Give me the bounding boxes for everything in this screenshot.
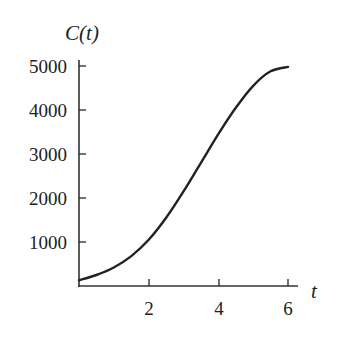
y-tick-label-3000: 3000 bbox=[29, 144, 67, 165]
x-axis-label: t bbox=[311, 279, 318, 303]
x-ticks bbox=[149, 279, 288, 286]
y-tick-label-4000: 4000 bbox=[29, 100, 67, 121]
y-tick-label-5000: 5000 bbox=[29, 56, 67, 77]
x-tick-label-6: 6 bbox=[283, 298, 293, 319]
y-tick-label-2000: 2000 bbox=[29, 188, 67, 209]
x-tick-label-4: 4 bbox=[214, 298, 224, 319]
x-tick-label-2: 2 bbox=[144, 298, 154, 319]
chart: 5000 4000 3000 2000 1000 2 4 6 C(t) t bbox=[0, 0, 339, 338]
y-tick-label-1000: 1000 bbox=[29, 232, 67, 253]
data-line-c-of-t bbox=[79, 67, 288, 280]
y-axis-label: C(t) bbox=[65, 21, 99, 45]
y-ticks bbox=[79, 66, 86, 242]
